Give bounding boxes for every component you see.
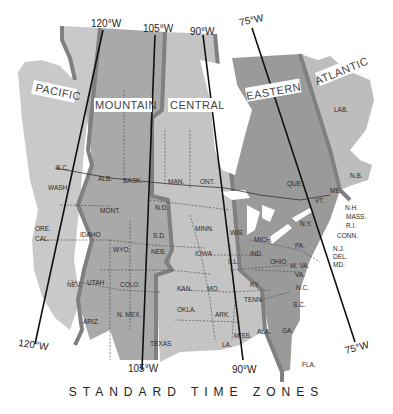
region-label: S.C. xyxy=(293,301,306,308)
region-label: OKLA. xyxy=(177,306,196,313)
region-label: W. VA. xyxy=(290,262,310,269)
region-label: IDAHO xyxy=(80,231,101,238)
region-label: OHIO xyxy=(270,258,287,265)
region-label: WYO. xyxy=(113,246,131,253)
region-label: LA. xyxy=(222,341,232,348)
region-label: LAB. xyxy=(334,106,348,113)
region-label: ALB. xyxy=(98,175,112,182)
region-label: MISS. xyxy=(234,332,252,339)
region-label: N.D. xyxy=(155,204,168,211)
time-zone-map: 120°W 105°W 90°W 75°W 120°W 105°W 90°W 7… xyxy=(0,0,393,414)
region-label: DEL. xyxy=(333,253,348,260)
region-label: N. MEX. xyxy=(117,311,141,318)
region-label: GA. xyxy=(282,327,293,334)
region-label: PA. xyxy=(295,242,305,249)
region-label: ILL. xyxy=(228,258,239,265)
region-label: WASH. xyxy=(48,184,69,191)
region-label: VA. xyxy=(295,271,305,278)
region-label: SASK. xyxy=(123,177,142,184)
label-120w-top: 120°W xyxy=(91,18,122,29)
region-label: N.B. xyxy=(350,172,363,179)
region-label: KAN. xyxy=(177,285,192,292)
label-105w-top: 105°W xyxy=(143,23,174,34)
region-label: MD. xyxy=(333,261,345,268)
region-label: UTAH xyxy=(87,279,105,286)
region-label: IOWA xyxy=(195,250,213,257)
map-title: STANDARD TIME ZONES xyxy=(0,385,393,399)
region-label: MONT. xyxy=(100,207,120,214)
region-label: ONT. xyxy=(200,178,215,185)
region-label: N.J. xyxy=(333,245,345,252)
region-label: ARIZ. xyxy=(83,318,100,325)
region-label: N.H. xyxy=(345,204,358,211)
label-105w-bottom: 105°W xyxy=(128,363,159,374)
region-label: COLO. xyxy=(120,281,140,288)
region-label: R.I. xyxy=(346,222,356,229)
region-label: ME. xyxy=(330,187,342,194)
region-label: MICH. xyxy=(254,236,273,243)
region-label: S.D. xyxy=(153,232,166,239)
region-label: N.Y. xyxy=(300,220,312,227)
region-label: ORE. xyxy=(35,225,51,232)
region-label: VT. xyxy=(315,197,325,204)
region-label: TENN. xyxy=(244,296,264,303)
region-label: TEXAS xyxy=(150,340,172,347)
region-label: NEV. xyxy=(67,281,82,288)
label-120w-bottom: 120°W xyxy=(18,337,50,352)
zone-label-central: CENTRAL xyxy=(170,99,225,111)
region-label: MASS. xyxy=(346,213,366,220)
region-label: IND. xyxy=(250,250,263,257)
label-75w-top: 75°W xyxy=(238,12,265,28)
region-label: FLA. xyxy=(302,361,316,368)
region-label: MO. xyxy=(207,285,219,292)
region-label: NEB. xyxy=(151,248,166,255)
region-label: B.C. xyxy=(56,164,69,171)
region-label: WIS. xyxy=(230,229,244,236)
region-label: CONN. xyxy=(337,232,358,239)
region-label: KY. xyxy=(250,281,260,288)
label-90w-top: 90°W xyxy=(190,26,215,37)
region-label: N.C. xyxy=(296,284,309,291)
region-label: QUE. xyxy=(287,180,303,188)
region-label: MINN. xyxy=(195,225,214,232)
region-label: MAN. xyxy=(168,178,184,185)
label-75w-bottom: 75°W xyxy=(344,339,371,356)
zone-label-mountain: MOUNTAIN xyxy=(95,99,157,111)
region-label: ALA. xyxy=(257,328,271,335)
region-label: CAL. xyxy=(35,235,50,242)
region-label: ARK. xyxy=(215,311,230,318)
label-90w-bottom: 90°W xyxy=(232,364,257,375)
